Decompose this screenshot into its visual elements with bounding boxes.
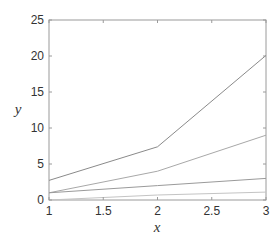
y-tick-label: 10 [31, 121, 45, 135]
line-chart: 0510152025 11.522.53 x y [0, 0, 280, 246]
x-tick-label: 1.5 [95, 204, 112, 218]
y-axis-label: y [13, 101, 22, 117]
y-tick-label: 25 [31, 13, 45, 27]
x-axis-label: x [153, 219, 161, 235]
x-tick-label: 2.5 [203, 204, 220, 218]
x-tick-label: 1 [46, 204, 53, 218]
plot-box [49, 20, 266, 200]
x-tick-label: 2 [154, 204, 161, 218]
y-tick-label: 15 [31, 85, 45, 99]
y-tick-label: 5 [37, 157, 44, 171]
plot-area [49, 20, 266, 200]
y-tick-label: 20 [31, 49, 45, 63]
y-tick-label: 0 [37, 193, 44, 207]
x-tick-label: 3 [263, 204, 270, 218]
